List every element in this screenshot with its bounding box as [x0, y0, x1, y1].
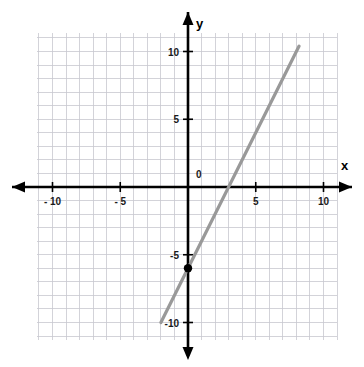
coordinate-plane-graph: - 10- 5510105-5-10 0 x y [0, 0, 364, 367]
y-tick-label: -5 [170, 250, 179, 261]
origin-label: 0 [196, 169, 202, 180]
x-tick-label: 5 [253, 196, 259, 207]
y-axis-label: y [196, 16, 204, 31]
y-tick-label: -10 [165, 318, 180, 329]
y-tick-label: 10 [168, 47, 180, 58]
x-tick-label: - 5 [114, 196, 126, 207]
x-tick-label: 10 [318, 196, 330, 207]
plotted-point [184, 264, 192, 272]
x-tick-label: - 10 [44, 196, 62, 207]
x-axis-label: x [341, 158, 349, 173]
graph-background [0, 0, 364, 367]
y-tick-label: 5 [173, 114, 179, 125]
graph-svg: - 10- 5510105-5-10 0 x y [0, 0, 364, 367]
